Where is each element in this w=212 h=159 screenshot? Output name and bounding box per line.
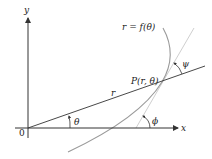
y-axis-label: y — [23, 5, 30, 15]
phi-label: ϕ — [152, 116, 158, 126]
point-label: P(r, θ) — [130, 76, 159, 86]
theta-label: θ — [74, 117, 80, 127]
radius-label: r — [111, 88, 116, 98]
phi-arc — [143, 116, 150, 128]
theta-arc — [69, 116, 70, 128]
x-axis-label: x — [181, 123, 186, 133]
polar-curve — [68, 28, 170, 152]
radius-line — [28, 66, 205, 128]
curve-label: r = f(θ) — [122, 22, 156, 32]
origin-label: 0 — [19, 128, 25, 138]
psi-arc — [174, 63, 182, 74]
polar-tangent-diagram: y x 0 r = f(θ) P(r, θ) r θ ϕ ψ — [0, 0, 212, 159]
diagram-canvas: y x 0 r = f(θ) P(r, θ) r θ ϕ ψ — [0, 0, 212, 159]
psi-label: ψ — [182, 59, 190, 69]
